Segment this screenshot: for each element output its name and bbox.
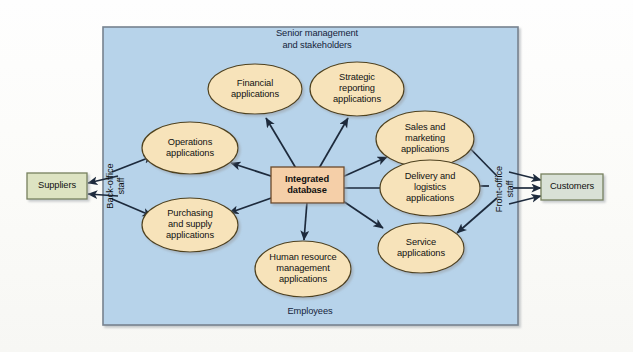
node-sales-marketing [376,111,474,167]
node-delivery-logistics [380,160,480,216]
node-customers [541,174,603,200]
diagram-canvas [0,0,633,352]
node-financial [208,64,302,114]
node-integrated-database [271,167,344,203]
node-purchasing-supply [142,198,238,252]
zone-label-front-office-staff: Front-office staff [494,166,516,212]
diagram-page: Senior management and stakeholders Emplo… [0,0,633,352]
node-suppliers [27,173,87,199]
node-human-resource [255,241,351,297]
zone-label-back-office-staff: Back-office staff [105,163,127,208]
front-office-line2: staff [505,166,516,212]
node-service [378,223,464,273]
node-operations [142,122,238,174]
back-office-line1: Back-office [105,163,116,208]
back-office-line2: staff [116,163,127,208]
front-office-line1: Front-office [494,166,505,212]
node-strategic-reporting [310,62,404,116]
